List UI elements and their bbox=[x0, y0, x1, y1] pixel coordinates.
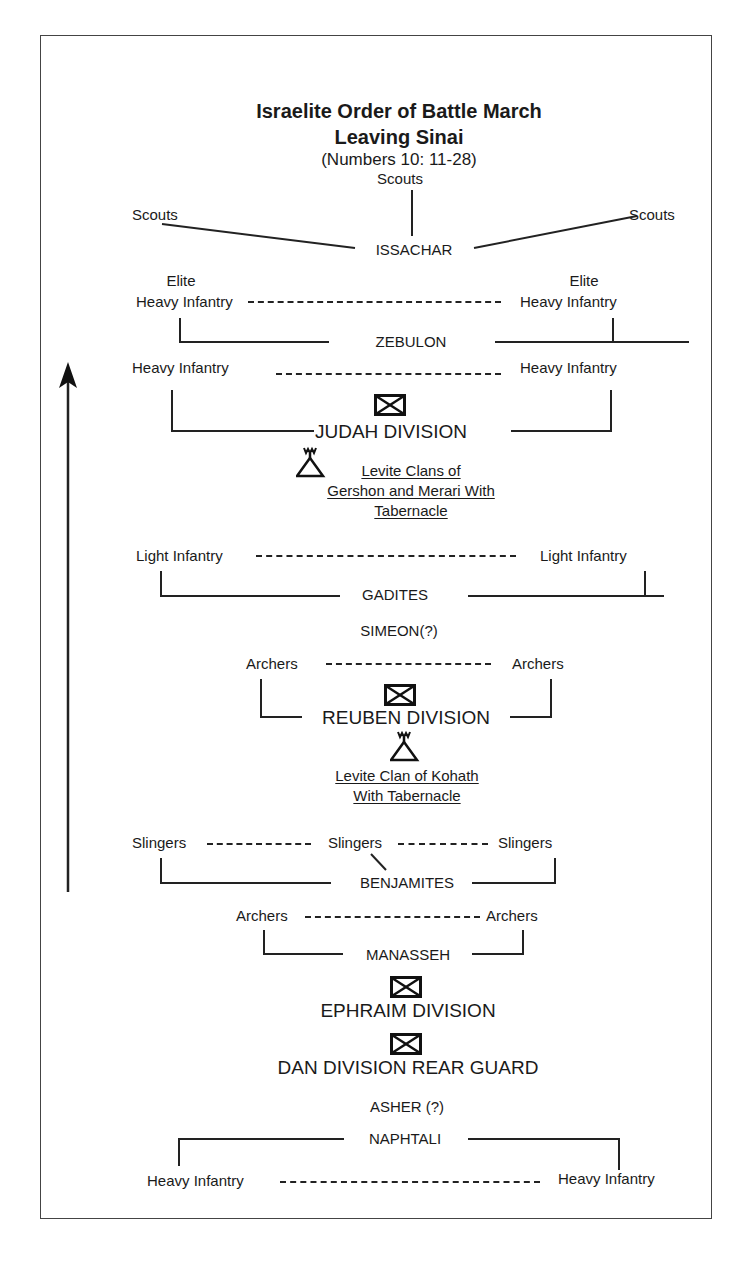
scouts-center: Scouts bbox=[377, 170, 423, 188]
naphtali-label: NAPHTALI bbox=[369, 1130, 441, 1148]
benjamites-bracket-left bbox=[160, 858, 162, 883]
levites-gershon-line-1: Levite Clans of bbox=[361, 462, 460, 480]
zebulon-left-elite: Elite bbox=[166, 272, 195, 290]
judah-bracket-left-h bbox=[171, 430, 314, 432]
infantry-division-icon bbox=[390, 976, 422, 998]
judah-dashed-line bbox=[276, 373, 501, 375]
reuben-bracket-left bbox=[260, 679, 262, 717]
gadites-label: GADITES bbox=[362, 586, 428, 604]
manasseh-label: MANASSEH bbox=[366, 946, 450, 964]
reuben-right-archers: Archers bbox=[512, 655, 564, 673]
zebulon-left-heavy-infantry: Heavy Infantry bbox=[136, 293, 233, 311]
zebulon-bracket-left bbox=[179, 318, 181, 342]
benjamites-left-slingers: Slingers bbox=[132, 834, 186, 852]
levites-gershon-line-2: Gershon and Merari With bbox=[327, 482, 495, 500]
zebulon-bracket-right bbox=[612, 318, 614, 342]
tabernacle-tent-icon bbox=[296, 446, 326, 478]
zebulon-bracket-right-h bbox=[495, 341, 689, 343]
reuben-dashed-line bbox=[326, 663, 491, 665]
judah-left-heavy-infantry: Heavy Infantry bbox=[132, 359, 229, 377]
naphtali-bracket-left-h bbox=[178, 1138, 344, 1140]
gadites-right-light-infantry: Light Infantry bbox=[540, 547, 627, 565]
manasseh-bracket-right-h bbox=[472, 953, 524, 955]
zebulon-dashed-line bbox=[248, 301, 501, 303]
issachar-label: ISSACHAR bbox=[376, 241, 453, 259]
judah-bracket-left bbox=[171, 390, 173, 431]
infantry-division-icon bbox=[374, 394, 406, 416]
benjamites-center-slingers: Slingers bbox=[328, 834, 382, 852]
reuben-bracket-right-h bbox=[510, 716, 552, 718]
levites-kohath-line-2: With Tabernacle bbox=[353, 787, 460, 805]
manasseh-bracket-left bbox=[263, 930, 265, 954]
judah-right-heavy-infantry: Heavy Infantry bbox=[520, 359, 617, 377]
levites-gershon-line-3: Tabernacle bbox=[374, 502, 447, 520]
benjamites-dashed-line-left bbox=[207, 843, 311, 845]
benjamites-label: BENJAMITES bbox=[360, 874, 454, 892]
gadites-bracket-right-h bbox=[468, 595, 664, 597]
manasseh-right-archers: Archers bbox=[486, 907, 538, 925]
zebulon-right-heavy-infantry: Heavy Infantry bbox=[520, 293, 617, 311]
reuben-bracket-left-h bbox=[260, 716, 302, 718]
simeon-label: SIMEON(?) bbox=[360, 622, 438, 640]
scouts-right: Scouts bbox=[629, 206, 675, 224]
naphtali-left-heavy-infantry: Heavy Infantry bbox=[147, 1172, 244, 1190]
scouts-left: Scouts bbox=[132, 206, 178, 224]
infantry-division-icon bbox=[384, 684, 416, 706]
benjamites-bracket-left-h bbox=[160, 882, 331, 884]
levites-kohath-line-1: Levite Clan of Kohath bbox=[335, 767, 478, 785]
naphtali-dashed-line bbox=[280, 1181, 540, 1183]
zebulon-label: ZEBULON bbox=[376, 333, 447, 351]
reuben-left-archers: Archers bbox=[246, 655, 298, 673]
judah-bracket-right bbox=[610, 390, 612, 431]
benjamites-bracket-right-h bbox=[472, 882, 556, 884]
asher-label: ASHER (?) bbox=[370, 1098, 444, 1116]
zebulon-right-elite: Elite bbox=[569, 272, 598, 290]
naphtali-bracket-right-h bbox=[468, 1138, 620, 1140]
manasseh-dashed-line bbox=[305, 916, 480, 918]
gadites-dashed-line bbox=[256, 555, 516, 557]
manasseh-bracket-right bbox=[522, 930, 524, 954]
benjamites-dashed-line-right bbox=[398, 843, 488, 845]
zebulon-bracket-left-h bbox=[179, 341, 329, 343]
benjamites-bracket-right bbox=[554, 858, 556, 883]
gadites-bracket-left-h bbox=[160, 595, 340, 597]
gadites-bracket-right bbox=[644, 571, 646, 596]
manasseh-left-archers: Archers bbox=[236, 907, 288, 925]
naphtali-right-heavy-infantry: Heavy Infantry bbox=[558, 1170, 655, 1188]
ephraim-division-label: EPHRAIM DIVISION bbox=[320, 1000, 495, 1022]
tabernacle-tent-icon bbox=[390, 730, 420, 762]
reuben-division-label: REUBEN DIVISION bbox=[322, 707, 490, 729]
gadites-left-light-infantry: Light Infantry bbox=[136, 547, 223, 565]
gadites-bracket-left bbox=[160, 571, 162, 596]
naphtali-bracket-left bbox=[178, 1138, 180, 1166]
reuben-bracket-right bbox=[550, 679, 552, 717]
dan-division-label: DAN DIVISION REAR GUARD bbox=[278, 1057, 539, 1079]
judah-division-label: JUDAH DIVISION bbox=[315, 421, 467, 443]
benjamites-right-slingers: Slingers bbox=[498, 834, 552, 852]
infantry-division-icon bbox=[390, 1033, 422, 1055]
manasseh-bracket-left-h bbox=[263, 953, 343, 955]
judah-bracket-right-h bbox=[511, 430, 612, 432]
naphtali-bracket-right bbox=[618, 1138, 620, 1170]
